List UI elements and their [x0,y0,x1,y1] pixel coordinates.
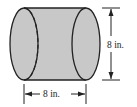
height-label: 8 in. [107,40,124,50]
cylinder-diagram: 8 in. 8 in. [0,0,137,107]
right-end [72,8,100,80]
cylinder [10,8,100,80]
length-dimension: 8 in. [24,84,86,104]
height-dimension: 8 in. [102,8,134,80]
length-label: 8 in. [43,89,60,99]
